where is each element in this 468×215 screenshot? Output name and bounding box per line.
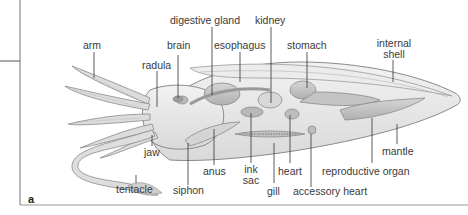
label-gill: gill (267, 186, 280, 197)
label-brain: brain (167, 40, 190, 51)
label-internal-shell-line2: shell (374, 49, 414, 60)
label-ink-sac-line2: sac (238, 175, 264, 186)
squid-anatomy-figure: arm radula brain digestive gland esophag… (0, 0, 468, 215)
label-reproductive-organ: reproductive organ (322, 166, 410, 177)
label-siphon: siphon (173, 185, 204, 196)
panel-letter: a (28, 193, 34, 205)
label-accessory-heart: accessory heart (293, 186, 367, 197)
label-tentacle: tentacle (116, 184, 153, 195)
label-anus: anus (203, 166, 226, 177)
label-esophagus: esophagus (214, 40, 265, 51)
label-internal-shell: internal shell (374, 38, 414, 60)
squid-diagram (0, 0, 468, 215)
label-digestive-gland: digestive gland (170, 15, 240, 26)
label-radula: radula (142, 60, 171, 71)
label-kidney: kidney (255, 15, 285, 26)
label-arm: arm (83, 40, 101, 51)
label-stomach: stomach (287, 40, 327, 51)
label-ink-sac: ink sac (238, 164, 264, 186)
label-heart: heart (278, 166, 302, 177)
label-jaw: jaw (144, 147, 160, 158)
label-mantle: mantle (382, 146, 414, 157)
